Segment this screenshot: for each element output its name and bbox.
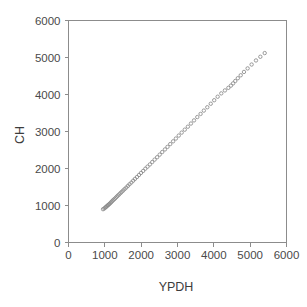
x-tick-label: 6000 <box>274 249 300 261</box>
y-tick-label: 4000 <box>35 89 61 101</box>
x-tick-label: 0 <box>65 249 71 261</box>
x-tick-label: 1000 <box>92 249 118 261</box>
y-tick-label: 2000 <box>35 163 61 175</box>
y-tick-label: 3000 <box>35 126 61 138</box>
y-tick-label: 1000 <box>35 200 61 212</box>
x-tick-label: 4000 <box>201 249 227 261</box>
y-axis-title: CH <box>13 126 27 144</box>
x-tick-label: 3000 <box>165 249 191 261</box>
y-tick-label: 5000 <box>35 52 61 64</box>
x-tick-label: 2000 <box>128 249 154 261</box>
x-tick-label: 5000 <box>237 249 263 261</box>
y-tick-label: 0 <box>54 237 60 249</box>
chart-background <box>0 0 307 307</box>
y-tick-label: 6000 <box>35 15 61 27</box>
x-axis-title: YPDH <box>159 280 194 294</box>
figure-container: 0100020003000400050006000 01000200030004… <box>0 0 307 307</box>
scatter-chart: 0100020003000400050006000 01000200030004… <box>0 0 307 307</box>
